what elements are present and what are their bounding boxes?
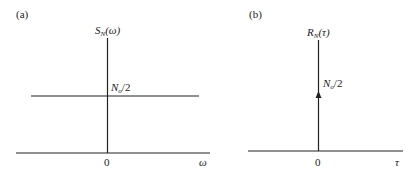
panel-a-y-axis-label: SN(ω) <box>95 25 120 40</box>
panel-a-label: (a) <box>16 9 28 20</box>
panel-b-impulse-arrowhead-icon <box>316 91 322 98</box>
panel-a-y-argument: (ω) <box>105 24 120 36</box>
panel-a-level-rest: /2 <box>122 81 131 93</box>
panel-b-y-axis-label: RN(τ) <box>307 27 330 42</box>
panel-b-y-symbol: R <box>307 26 314 38</box>
panel-b-level-rest: /2 <box>334 77 343 89</box>
diagram-canvas <box>0 0 418 173</box>
panel-a-x-axis-label: ω <box>199 157 207 168</box>
panel-a-origin-label: 0 <box>104 157 110 168</box>
panel-b-level-label: No/2 <box>323 78 342 93</box>
panel-b-y-argument: (τ) <box>318 26 329 38</box>
panel-b-label: (b) <box>249 9 262 20</box>
panel-a-level-label: No/2 <box>111 82 130 97</box>
panel-b-graphics <box>248 40 403 151</box>
panel-b-x-axis-label: τ <box>395 157 399 168</box>
panel-b-origin-label: 0 <box>315 157 321 168</box>
